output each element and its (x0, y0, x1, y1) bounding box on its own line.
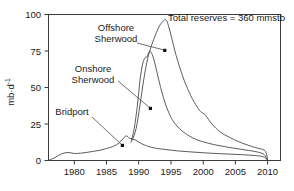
annotation-offshore-sherwood: Offshore Sherwood (95, 22, 167, 52)
annotation-total-reserves-label: Total reserves = 360 mmstb (168, 12, 285, 23)
x-tick-label-1990: 1990 (128, 166, 149, 177)
annotation-bridport-line1: Bridport (55, 106, 89, 117)
annotation-onshore-sherwood-dot (149, 107, 152, 110)
x-tick-label-2005: 2005 (225, 166, 246, 177)
x-axis-ticks: 1980 1985 1990 1995 2000 2005 2010 (64, 161, 278, 178)
annotation-total-reserves: Total reserves = 360 mmstb (168, 12, 285, 23)
x-tick-label-1995: 1995 (160, 166, 181, 177)
chart-svg: 100 75 50 25 0 mb·d-1 1980 1985 1990 199… (0, 0, 294, 191)
y-tick-label-50: 50 (30, 82, 41, 93)
annotation-onshore-sherwood-leader (118, 81, 150, 108)
x-tick-label-1980: 1980 (64, 166, 85, 177)
chart-figure: 100 75 50 25 0 mb·d-1 1980 1985 1990 199… (0, 0, 294, 191)
annotation-offshore-sherwood-dot (163, 49, 166, 52)
y-axis-title-superscript: -1 (4, 78, 11, 84)
y-axis-title: mb·d-1 (4, 78, 16, 106)
series-line-onshore-sherwood (131, 51, 268, 160)
y-axis-ticks: 100 75 50 25 0 (25, 9, 48, 166)
series-group (49, 20, 268, 161)
annotation-bridport-leader (92, 117, 122, 145)
x-tick-label-2010: 2010 (257, 166, 278, 177)
annotation-bridport-dot (121, 144, 124, 147)
y-tick-label-25: 25 (30, 119, 41, 130)
annotation-offshore-sherwood-line1: Offshore (98, 22, 134, 33)
y-tick-label-0: 0 (36, 155, 41, 166)
y-tick-label-75: 75 (30, 46, 41, 57)
y-tick-label-100: 100 (25, 9, 41, 20)
annotation-offshore-sherwood-line2: Sherwood (95, 33, 138, 44)
x-tick-label-2000: 2000 (193, 166, 214, 177)
annotation-onshore-sherwood-line1: Onshore (75, 63, 111, 74)
plot-frame (49, 15, 281, 161)
y-axis-title-group: mb·d-1 (4, 78, 16, 106)
x-tick-label-1985: 1985 (96, 166, 117, 177)
annotation-bridport: Bridport (55, 106, 124, 147)
series-line-total (132, 20, 267, 161)
annotation-onshore-sherwood-line2: Sherwood (72, 74, 115, 85)
y-axis-title-text: mb·d (5, 84, 16, 106)
